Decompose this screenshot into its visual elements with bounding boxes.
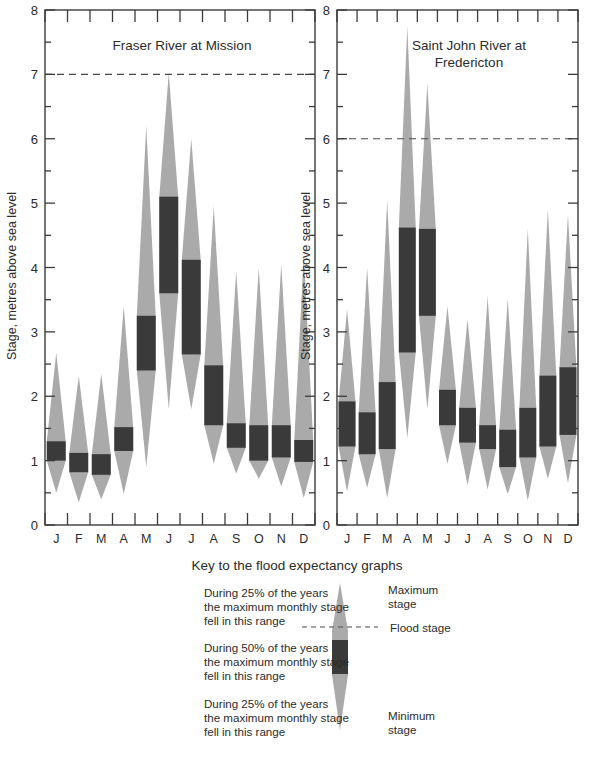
range-spindle [379,200,396,498]
y-tick-label: 7 [31,67,38,82]
x-axis-month-label: J [53,532,59,546]
x-axis-month-label: N [277,532,286,546]
month-glyph [114,306,133,494]
chart-svg-fraser: 012345678JFMAMJJASOND Fraser River at Mi… [0,0,320,552]
x-axis-month-label: N [543,532,552,546]
x-axis-month-label: O [523,532,533,546]
range-spindle [560,215,577,483]
legend-lower-quartile-text: the maximum monthly stage [204,711,349,724]
interquartile-box [249,425,268,460]
range-spindle [359,268,376,488]
month-glyph [272,264,291,486]
month-glyph [204,206,223,464]
month-glyph [499,298,516,494]
range-spindle [47,352,66,492]
month-glyph [459,319,476,485]
legend-lower-quartile-text: During 25% of the years [204,697,329,710]
chart-title-fraser: Fraser River at Mission [113,38,252,53]
month-glyph [92,374,111,500]
y-tick-label: 5 [31,196,38,211]
y-tick-label: 8 [31,3,38,18]
legend-flood-stage-label: Flood stage [390,621,451,634]
legend-maximum-stage-label: stage [388,597,416,610]
month-glyph [560,215,577,483]
interquartile-box [439,390,456,425]
interquartile-box [114,427,133,451]
legend-minimum-stage-label: stage [388,723,416,736]
x-axis-month-label: M [382,532,392,546]
y-tick-label: 4 [31,261,38,276]
interquartile-box [539,376,556,447]
interquartile-box [479,425,496,449]
chart-body-saintjohn [339,26,577,500]
legend-lower-quartile-text: fell in this range [204,725,285,738]
interquartile-box [182,260,201,355]
interquartile-box [92,454,111,475]
y-tick-label: 0 [31,518,38,533]
interquartile-box [47,441,66,460]
y-tick-label: 7 [323,67,330,82]
interquartile-box [459,408,476,443]
month-glyph [137,126,156,467]
interquartile-box [69,453,88,472]
legend-labels: During 25% of the yearsthe maximum month… [204,583,451,738]
month-glyph [399,26,416,438]
y-tick-label: 3 [323,325,330,340]
legend-upper-quartile-text: fell in this range [204,614,285,627]
x-axis-month-label: D [563,532,572,546]
month-glyph [69,376,88,503]
figure-root: 012345678JFMAMJJASOND Fraser River at Mi… [0,0,594,762]
range-spindle [479,296,496,489]
chart-title-saintjohn: Saint John River atFredericton [412,38,526,70]
month-glyph [479,296,496,489]
legend-svg: Key to the flood expectancy graphs Durin… [0,552,594,762]
legend-maximum-stage-label: Maximum [388,583,438,596]
month-glyph [439,306,456,464]
x-axis-month-label: J [166,532,172,546]
legend-interquartile-text: fell in this range [204,669,285,682]
interquartile-box [379,382,396,449]
range-spindle [519,229,536,501]
month-glyph [227,271,246,474]
interquartile-box [499,430,516,467]
range-spindle [459,319,476,485]
x-axis-month-label: M [96,532,106,546]
chart-frame-saintjohn: 012345678JFMAMJJASOND [323,3,578,546]
range-spindle [439,306,456,464]
x-axis-month-label: A [403,532,412,546]
range-spindle [137,126,156,467]
chart-panel-saintjohn: 012345678JFMAMJJASOND Saint John River a… [294,0,594,552]
legend-interquartile-text: During 50% of the years [204,641,329,654]
legend-upper-quartile-text: During 25% of the years [204,586,329,599]
x-axis-month-label: J [344,532,350,546]
legend-interquartile-text: the maximum monthly stage [204,655,349,668]
x-axis-month-label: A [483,532,492,546]
month-glyph [47,352,66,492]
chart-title-line: Saint John River at [412,38,526,53]
month-glyph [159,73,178,409]
y-axis-label-fraser: Stage, metres above sea level [5,192,19,360]
interquartile-box [359,412,376,454]
interquartile-box [339,401,356,446]
y-tick-label: 0 [323,518,330,533]
y-tick-label: 6 [31,132,38,147]
interquartile-box [560,367,577,435]
chart-body-fraser [47,73,313,502]
month-glyph [339,309,356,491]
x-axis-month-label: O [254,532,264,546]
month-glyph [182,139,201,409]
x-axis-month-label: M [422,532,432,546]
y-tick-label: 1 [31,454,38,469]
y-tick-label: 2 [31,389,38,404]
x-axis-month-label: S [504,532,512,546]
x-axis-month-label: A [210,532,219,546]
legend-upper-quartile-text: the maximum monthly stage [204,600,349,613]
x-axis-month-label: J [464,532,470,546]
chart-title-line: Fredericton [435,55,503,70]
y-tick-label: 6 [323,132,330,147]
y-axis-label-saintjohn: Stage, metres above sea level [299,192,313,360]
x-axis-month-label: S [232,532,240,546]
interquartile-box [419,229,436,316]
month-glyph [539,210,556,479]
range-spindle [114,306,133,494]
